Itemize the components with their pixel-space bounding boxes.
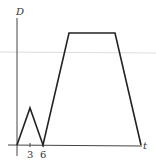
- background-rule: [0, 52, 156, 53]
- x-tick-label-3: 3: [27, 149, 33, 160]
- y-axis-label: D: [15, 6, 24, 17]
- data-line: [17, 33, 141, 145]
- x-tick-label-6: 6: [40, 149, 46, 160]
- x-axis-label: t: [143, 140, 148, 151]
- x-axis: [8, 145, 142, 146]
- distance-time-chart: D t 3 6: [0, 0, 156, 165]
